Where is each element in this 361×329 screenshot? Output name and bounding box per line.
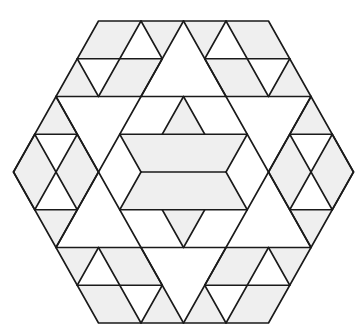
gray-cell	[120, 172, 248, 210]
gray-cell	[120, 134, 248, 172]
hexagon-pattern-figure	[0, 0, 361, 329]
